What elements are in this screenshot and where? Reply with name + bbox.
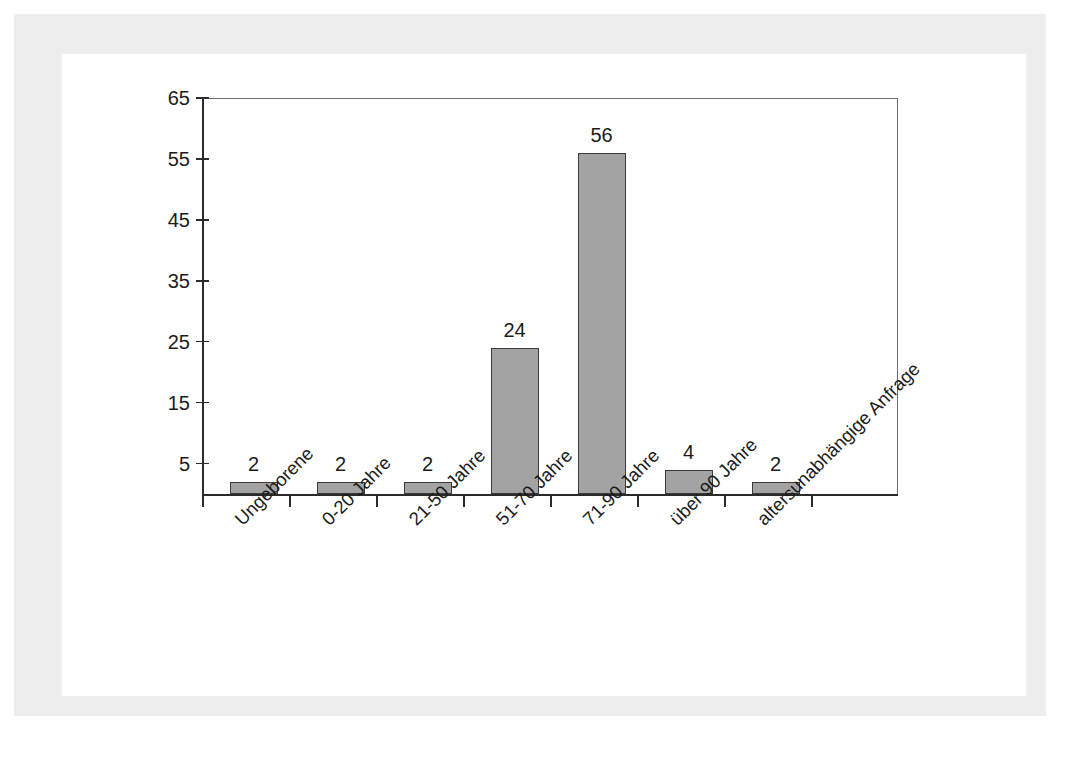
x-tick-mark [724, 494, 726, 507]
y-tick-mark [196, 97, 209, 99]
bar [491, 348, 539, 494]
x-tick-mark [463, 494, 465, 507]
x-tick-mark [202, 494, 204, 507]
y-tick-label: 15 [148, 391, 190, 414]
y-tick-mark [196, 219, 209, 221]
x-tick-mark [376, 494, 378, 507]
bar-value-label: 56 [590, 125, 612, 145]
bar-value-label: 4 [683, 442, 694, 462]
bar-value-label: 2 [335, 454, 346, 474]
y-tick-label: 55 [148, 147, 190, 170]
y-tick-label: 5 [148, 452, 190, 475]
y-tick-label: 65 [148, 87, 190, 110]
x-tick-mark [637, 494, 639, 507]
y-axis-line [202, 97, 204, 496]
y-tick-mark [196, 463, 209, 465]
bar [578, 153, 626, 494]
x-tick-mark [811, 494, 813, 507]
plot-frame [202, 98, 898, 495]
y-tick-label: 45 [148, 208, 190, 231]
y-tick-mark [196, 402, 209, 404]
y-tick-mark [196, 280, 209, 282]
y-tick-label: 25 [148, 330, 190, 353]
bar-value-label: 2 [422, 454, 433, 474]
bar-chart: 5152535455565 222245642 Ungeborene0-20 J… [0, 0, 1072, 761]
y-tick-label: 35 [148, 269, 190, 292]
y-tick-mark [196, 341, 209, 343]
bar-value-label: 2 [248, 454, 259, 474]
x-tick-mark [550, 494, 552, 507]
y-tick-mark [196, 158, 209, 160]
x-tick-mark [289, 494, 291, 507]
scanned-page: 5152535455565 222245642 Ungeborene0-20 J… [0, 0, 1072, 761]
bar-value-label: 24 [503, 320, 525, 340]
bar-value-label: 2 [770, 454, 781, 474]
